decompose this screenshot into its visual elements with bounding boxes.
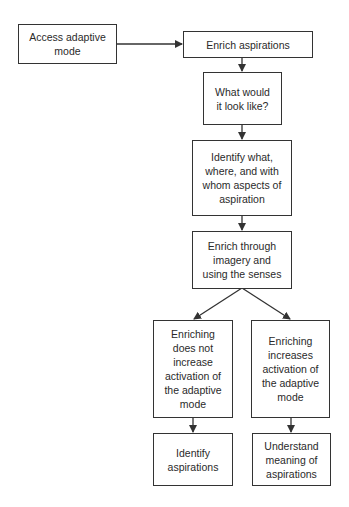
connector-layer	[0, 0, 349, 507]
node-identify-what-where-whom: Identify what, where, and with whom aspe…	[192, 140, 292, 216]
node-enrich-aspirations: Enrich aspirations	[183, 31, 313, 58]
node-what-would-it-look-like: What would it look like?	[203, 72, 282, 125]
node-access-adaptive-mode: Access adaptive mode	[18, 24, 117, 64]
node-enrich-through-imagery: Enrich through imagery and using the sen…	[192, 231, 292, 289]
node-identify-aspirations: Identify aspirations	[153, 433, 233, 486]
edge-imagery-to-increases	[242, 288, 290, 319]
node-enriching-increases: Enriching increases activation of the ad…	[251, 320, 330, 418]
node-understand-meaning: Understand meaning of aspirations	[252, 433, 331, 486]
node-enriching-does-not-increase: Enriching does not increase activation o…	[153, 320, 233, 418]
edge-imagery-to-not-increase	[194, 288, 242, 319]
